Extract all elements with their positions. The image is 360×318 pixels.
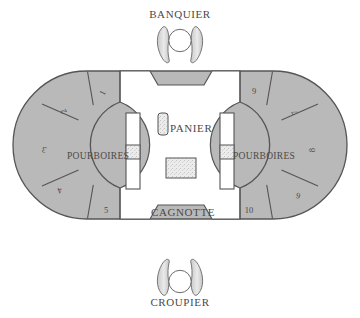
baccarat-table-diagram: BANQUIER [0, 0, 360, 318]
seat-number-9: 9 [252, 86, 256, 96]
cagnotte-label: CAGNOTTE [151, 206, 215, 218]
seat-number-5: 5 [104, 205, 108, 215]
panier-label: PANIER [170, 122, 212, 134]
pourboires-left-label: POURBOIRES [67, 151, 129, 161]
cagnotte-slot [166, 158, 196, 178]
croupier-label: CROUPIER [0, 296, 360, 308]
seat-number-8: 8 [307, 148, 317, 152]
seat-number-10: 10 [245, 205, 254, 215]
pourboires-right-label: POURBOIRES [233, 151, 295, 161]
panier-slot [158, 113, 168, 135]
croupier-figure-icon [152, 254, 208, 298]
chip-channel-right [220, 113, 234, 189]
